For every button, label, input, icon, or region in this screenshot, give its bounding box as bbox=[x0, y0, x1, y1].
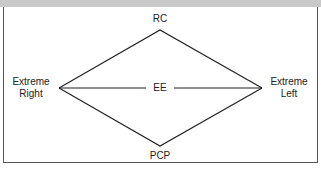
node-pcp: PCP bbox=[143, 150, 177, 162]
node-extreme-left: Extreme Left bbox=[264, 76, 314, 100]
node-extreme-right-line1: Extreme bbox=[8, 76, 54, 88]
node-rc: RC bbox=[145, 13, 175, 25]
node-extreme-left-line1: Extreme bbox=[264, 76, 314, 88]
node-extreme-right-line2: Right bbox=[8, 88, 54, 100]
node-extreme-right: Extreme Right bbox=[8, 76, 54, 100]
upper-edges bbox=[59, 30, 262, 88]
node-ee: EE bbox=[146, 82, 174, 94]
lower-edges bbox=[59, 88, 262, 146]
node-extreme-left-line2: Left bbox=[264, 88, 314, 100]
